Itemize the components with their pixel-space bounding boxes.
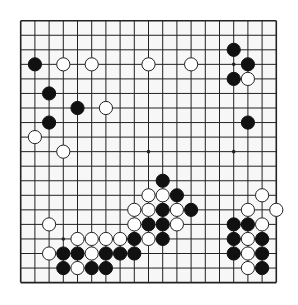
star-point [232, 63, 236, 67]
black-stone [28, 58, 41, 71]
white-stone [128, 203, 141, 216]
star-point [147, 150, 151, 154]
white-stone [256, 189, 269, 202]
white-stone [241, 247, 254, 260]
white-stone [43, 247, 56, 260]
black-stone [156, 218, 169, 231]
black-stone [170, 189, 183, 202]
black-stone [227, 218, 240, 231]
black-stone [241, 58, 254, 71]
black-stone [43, 116, 56, 129]
black-stone [227, 247, 240, 260]
black-stone [128, 232, 141, 245]
white-stone [99, 232, 112, 245]
white-stone [170, 218, 183, 231]
black-stone [241, 116, 254, 129]
black-stone [71, 247, 84, 260]
black-stone [128, 247, 141, 260]
go-board[interactable] [0, 0, 298, 305]
white-stone [57, 58, 70, 71]
star-point [232, 150, 236, 154]
star-point [62, 237, 66, 241]
black-stone [43, 87, 56, 100]
white-stone [85, 232, 98, 245]
white-stone [241, 203, 254, 216]
black-stone [99, 261, 112, 274]
white-stone [142, 232, 155, 245]
black-stone [71, 101, 84, 114]
black-stone [99, 247, 112, 260]
black-stone [156, 203, 169, 216]
white-stone [28, 131, 41, 144]
white-stone [170, 203, 183, 216]
black-stone [185, 203, 198, 216]
white-stone [241, 261, 254, 274]
white-stone [85, 58, 98, 71]
white-stone [256, 218, 269, 231]
black-stone [57, 247, 70, 260]
white-stone [142, 203, 155, 216]
black-stone [241, 218, 254, 231]
black-stone [227, 232, 240, 245]
white-stone [85, 247, 98, 260]
black-stone [57, 261, 70, 274]
black-stone [156, 232, 169, 245]
white-stone [241, 232, 254, 245]
black-stone [114, 247, 127, 260]
black-stone [227, 72, 240, 85]
white-stone [142, 189, 155, 202]
white-stone [99, 101, 112, 114]
black-stone [142, 218, 155, 231]
white-stone [71, 261, 84, 274]
black-stone [256, 261, 269, 274]
white-stone [114, 232, 127, 245]
black-stone [156, 174, 169, 187]
black-stone [256, 232, 269, 245]
white-stone [156, 189, 169, 202]
white-stone [185, 58, 198, 71]
black-stone [227, 43, 240, 56]
white-stone [142, 58, 155, 71]
white-stone [71, 232, 84, 245]
white-stone [57, 145, 70, 158]
white-stone [43, 218, 56, 231]
white-stone [128, 218, 141, 231]
black-stone [256, 247, 269, 260]
white-stone [241, 72, 254, 85]
black-stone [85, 261, 98, 274]
white-stone [270, 203, 283, 216]
